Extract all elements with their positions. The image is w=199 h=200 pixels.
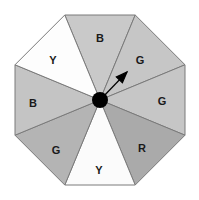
sector-label-bottom-right: R xyxy=(138,142,146,154)
sector-label-left: B xyxy=(29,97,37,109)
sector-label-top-right: G xyxy=(136,54,145,66)
sector-label-top-left: Y xyxy=(49,54,57,66)
spinner-canvas: BGGRYGBY xyxy=(0,0,199,200)
sector-label-top: B xyxy=(96,32,104,44)
sector-label-right: G xyxy=(158,95,167,107)
sector-label-bottom-left: G xyxy=(52,144,61,156)
spinner-figure: BGGRYGBY xyxy=(0,0,199,200)
sector-label-bottom: Y xyxy=(95,164,103,176)
